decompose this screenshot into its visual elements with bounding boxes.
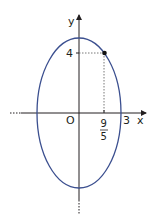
guide-lines <box>79 53 104 113</box>
y-axis-label: y <box>68 15 75 28</box>
fraction-denominator: 5 <box>101 131 107 142</box>
fraction-numerator: 9 <box>101 118 107 129</box>
x-axis-label: x <box>137 114 144 127</box>
ellipse-diagram: y x O 4 3 9 5 <box>0 0 156 217</box>
origin-label: O <box>66 114 75 127</box>
point-marker <box>102 51 107 56</box>
y-tick-label-4: 4 <box>66 47 73 60</box>
x-tick-label-9-5: 9 5 <box>100 118 108 142</box>
x-tick-label-3: 3 <box>123 114 130 127</box>
